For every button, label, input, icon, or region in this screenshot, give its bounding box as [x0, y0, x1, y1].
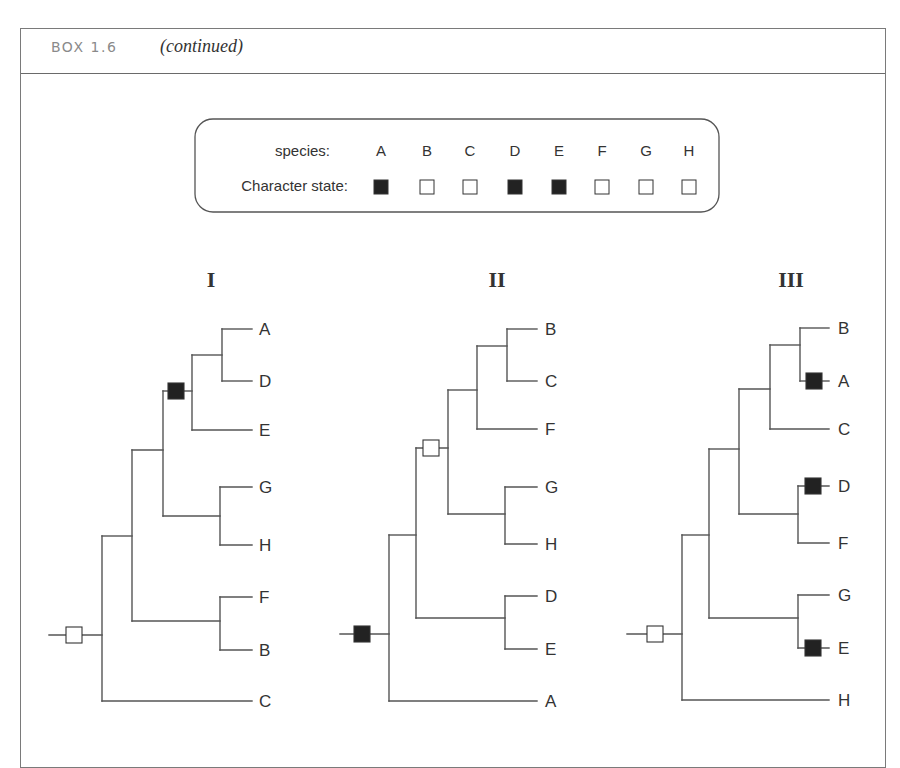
leaf-label-C: C: [259, 692, 271, 711]
tree-title-2: II: [488, 267, 505, 292]
legend-species-G: G: [640, 142, 652, 159]
leaf-label-E: E: [259, 421, 270, 440]
leaf-label-H: H: [259, 536, 271, 555]
leaf-label-F: F: [838, 534, 848, 553]
legend-state-label: Character state:: [241, 177, 348, 194]
legend-species-A: A: [376, 142, 386, 159]
character-state-marker-derived: [805, 640, 821, 656]
legend-species-E: E: [554, 142, 564, 159]
legend-species-H: H: [684, 142, 695, 159]
tree-2: BCFGHDEA: [340, 320, 558, 711]
leaf-label-D: D: [545, 587, 557, 606]
character-state-marker-ancestral: [66, 627, 82, 643]
legend-state-F: [595, 180, 609, 194]
tree-title-3: III: [778, 267, 804, 292]
leaf-label-H: H: [838, 691, 850, 710]
legend-species-C: C: [465, 142, 476, 159]
leaf-label-G: G: [259, 478, 272, 497]
legend-state-A: [374, 180, 388, 194]
leaf-label-D: D: [838, 477, 850, 496]
character-state-marker-ancestral: [423, 440, 439, 456]
leaf-label-D: D: [259, 372, 271, 391]
leaf-label-E: E: [545, 640, 556, 659]
legend-state-E: [552, 180, 566, 194]
character-state-marker-derived: [168, 383, 184, 399]
leaf-label-A: A: [259, 320, 271, 339]
tree-3: BACDFGEH: [627, 319, 851, 710]
legend-state-H: [682, 180, 696, 194]
legend-species-D: D: [510, 142, 521, 159]
legend-species-label: species:: [275, 142, 330, 159]
legend-cells: ABCDEFGH: [374, 142, 696, 194]
legend-species-F: F: [597, 142, 606, 159]
leaf-label-F: F: [545, 420, 555, 439]
leaf-label-C: C: [838, 420, 850, 439]
character-state-marker-ancestral: [647, 626, 663, 642]
leaf-label-C: C: [545, 372, 557, 391]
character-state-marker-derived: [805, 478, 821, 494]
character-state-marker-derived: [354, 626, 370, 642]
legend-state-G: [639, 180, 653, 194]
legend-state-B: [420, 180, 434, 194]
legend-state-D: [508, 180, 522, 194]
leaf-label-H: H: [545, 535, 557, 554]
character-state-marker-derived: [806, 373, 822, 389]
legend-state-C: [463, 180, 477, 194]
legend-frame: [195, 119, 719, 212]
leaf-label-G: G: [545, 478, 558, 497]
legend-species-B: B: [422, 142, 432, 159]
leaf-label-B: B: [545, 320, 556, 339]
leaf-label-E: E: [838, 639, 849, 658]
leaf-label-B: B: [259, 641, 270, 660]
tree-title-1: I: [207, 267, 216, 292]
leaf-label-A: A: [838, 372, 850, 391]
leaf-label-G: G: [838, 586, 851, 605]
leaf-label-F: F: [259, 588, 269, 607]
leaf-label-A: A: [545, 692, 557, 711]
leaf-label-B: B: [838, 319, 849, 338]
tree-1: ADEGHFBC: [49, 320, 272, 711]
